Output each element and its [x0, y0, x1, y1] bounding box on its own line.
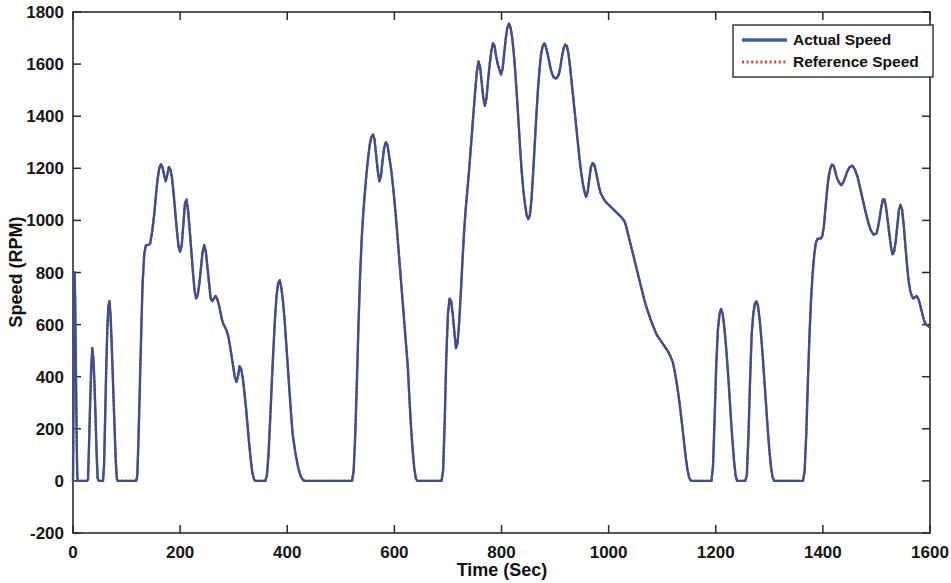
legend-label-reference-speed: Reference Speed	[793, 53, 919, 70]
y-axis-title: Speed (RPM)	[6, 216, 26, 327]
series-line-actual-speed	[73, 24, 930, 481]
x-tick-label: 600	[380, 543, 408, 562]
y-tick-label: 600	[36, 316, 64, 335]
y-tick-label: -200	[30, 524, 64, 543]
speed-profile-chart: -200020040060080010001200140016001800 02…	[0, 0, 951, 583]
x-tick-label: 1400	[804, 543, 842, 562]
y-tick-label: 1000	[26, 211, 64, 230]
chart-legend: Actual Speed Reference Speed	[733, 25, 933, 77]
y-tick-label: 1600	[26, 55, 64, 74]
x-tick-label: 1000	[590, 543, 628, 562]
y-tick-label: 0	[55, 472, 64, 491]
x-axis-title: Time (Sec)	[457, 560, 548, 580]
y-tick-label: 200	[36, 420, 64, 439]
y-tick-label: 1200	[26, 159, 64, 178]
x-tick-label: 1200	[697, 543, 735, 562]
y-tick-label: 800	[36, 264, 64, 283]
x-tick-label: 200	[166, 543, 194, 562]
y-tick-label: 400	[36, 368, 64, 387]
chart-figure: -200020040060080010001200140016001800 02…	[0, 0, 951, 583]
y-tick-label: 1800	[26, 3, 64, 22]
x-tick-label: 1600	[911, 543, 949, 562]
x-tick-label: 400	[273, 543, 301, 562]
data-series-layer	[73, 24, 930, 481]
legend-label-actual-speed: Actual Speed	[793, 31, 891, 48]
x-tick-label: 0	[68, 543, 77, 562]
y-tick-label: 1400	[26, 107, 64, 126]
y-axis-tick-labels: -200020040060080010001200140016001800	[26, 3, 64, 543]
